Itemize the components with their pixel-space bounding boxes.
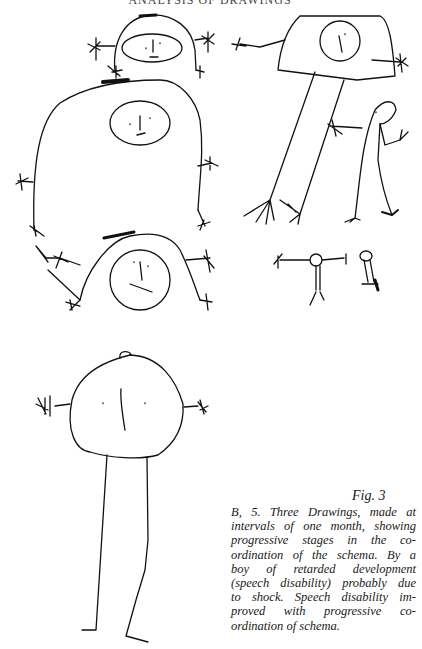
drawing-third-month <box>36 352 208 642</box>
caption-line: B, 5. Three Drawings, made at <box>231 505 416 519</box>
caption-line: (speech disability) probably due <box>231 576 416 590</box>
caption-line: progressive stages in the co- <box>231 533 416 547</box>
figure-caption: B, 5. Three Drawings, made at intervals … <box>231 505 416 633</box>
caption-line: ordination of the schema. By a <box>231 548 416 562</box>
caption-line: intervals of one month, showing <box>231 519 416 533</box>
drawing-second-month <box>232 16 408 305</box>
caption-line: ordination of schema. <box>231 619 416 633</box>
caption-line: proved with progressive co- <box>231 604 416 618</box>
caption-line: to shock. Speech disability im- <box>231 590 416 604</box>
drawing-first-month <box>16 15 218 310</box>
caption-line: boy of retarded development <box>231 562 416 576</box>
figure-label: Fig. 3 <box>352 488 385 504</box>
